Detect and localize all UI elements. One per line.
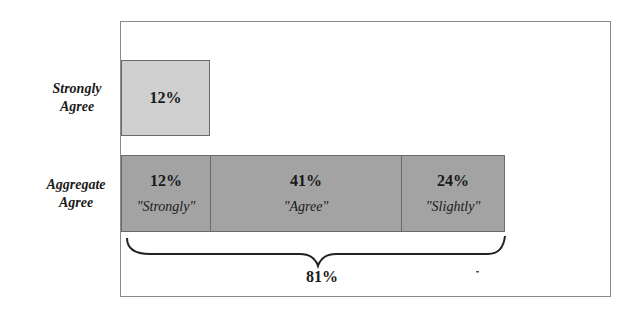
total-label: 81%: [292, 268, 352, 286]
